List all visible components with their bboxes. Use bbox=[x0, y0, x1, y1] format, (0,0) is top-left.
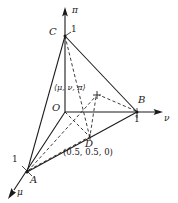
d-coordinates-label: (0.5, 0.5, 0) bbox=[63, 148, 113, 157]
dashed-O-D bbox=[65, 112, 90, 137]
figure-container: π ν μ C B A O D 1 1 1 ⟨μ, ν, π⟩ (0.5, 0.… bbox=[0, 0, 178, 203]
dashed-B-point bbox=[99, 95, 136, 111]
tetrahedron-diagram bbox=[0, 0, 178, 203]
unit-label-mu: 1 bbox=[12, 155, 18, 164]
vertex-label-A: A bbox=[30, 175, 37, 185]
edge-C-B bbox=[65, 36, 137, 112]
vertex-label-B: B bbox=[138, 95, 145, 105]
axis-mu-line bbox=[14, 112, 65, 190]
interior-point-label: ⟨μ, ν, π⟩ bbox=[54, 84, 86, 92]
axis-label-nu: ν bbox=[164, 114, 169, 123]
vertex-label-C: C bbox=[49, 27, 57, 37]
axis-label-mu: μ bbox=[17, 188, 23, 197]
axis-label-pi: π bbox=[72, 6, 78, 15]
unit-label-pi: 1 bbox=[71, 25, 77, 34]
edge-A-B bbox=[27, 112, 137, 172]
unit-label-nu: 1 bbox=[134, 115, 140, 124]
interior-point-marker bbox=[93, 91, 101, 99]
vertex-label-O: O bbox=[52, 103, 60, 113]
dashed-point-D bbox=[90, 97, 96, 136]
